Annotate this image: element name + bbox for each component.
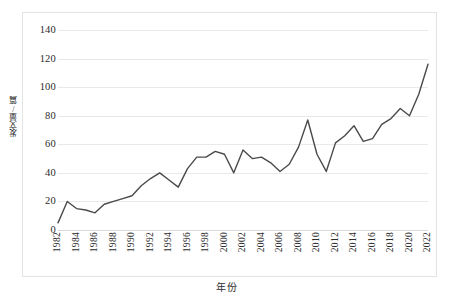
x-tick-label-1996: 1996: [183, 232, 193, 252]
x-tick-label-2016: 2016: [368, 232, 378, 252]
x-tick-label-2008: 2008: [294, 232, 304, 252]
x-tick-label-2000: 2000: [220, 232, 230, 252]
x-tick-label-2002: 2002: [238, 232, 248, 252]
x-tick-label-1990: 1990: [127, 232, 137, 252]
x-tick-label-2022: 2022: [423, 232, 433, 252]
x-axis-tick-labels: 1982198419861988199019921994199619982000…: [58, 232, 428, 276]
x-tick-label-2018: 2018: [386, 232, 396, 252]
x-tick-label-2006: 2006: [275, 232, 285, 252]
y-tick-label-60: 60: [45, 139, 56, 150]
y-tick-label-40: 40: [45, 168, 56, 179]
data-series-line: [58, 30, 428, 230]
x-tick-label-2020: 2020: [405, 232, 415, 252]
x-tick-label-1994: 1994: [164, 232, 174, 252]
x-tick-label-1992: 1992: [146, 232, 156, 252]
plot-area: [58, 30, 428, 230]
x-tick-label-1984: 1984: [72, 232, 82, 252]
y-tick-label-120: 120: [40, 53, 56, 64]
x-tick-label-2004: 2004: [257, 232, 267, 252]
x-tick-label-2014: 2014: [349, 232, 359, 252]
x-tick-label-2012: 2012: [331, 232, 341, 252]
x-tick-label-2010: 2010: [312, 232, 322, 252]
y-tick-label-100: 100: [40, 82, 56, 93]
x-tick-label-1982: 1982: [53, 232, 63, 252]
publication-trend-line-chart: 发文量/篇 020406080100120140 198219841986198…: [0, 0, 453, 301]
x-axis-title: 年份: [0, 279, 453, 294]
x-tick-label-1986: 1986: [90, 232, 100, 252]
x-tick-label-1998: 1998: [201, 232, 211, 252]
y-tick-label-140: 140: [40, 25, 56, 36]
y-axis-tick-labels: 020406080100120140: [22, 30, 56, 230]
y-tick-label-20: 20: [45, 196, 56, 207]
y-tick-label-80: 80: [45, 110, 56, 121]
x-tick-label-1988: 1988: [109, 232, 119, 252]
